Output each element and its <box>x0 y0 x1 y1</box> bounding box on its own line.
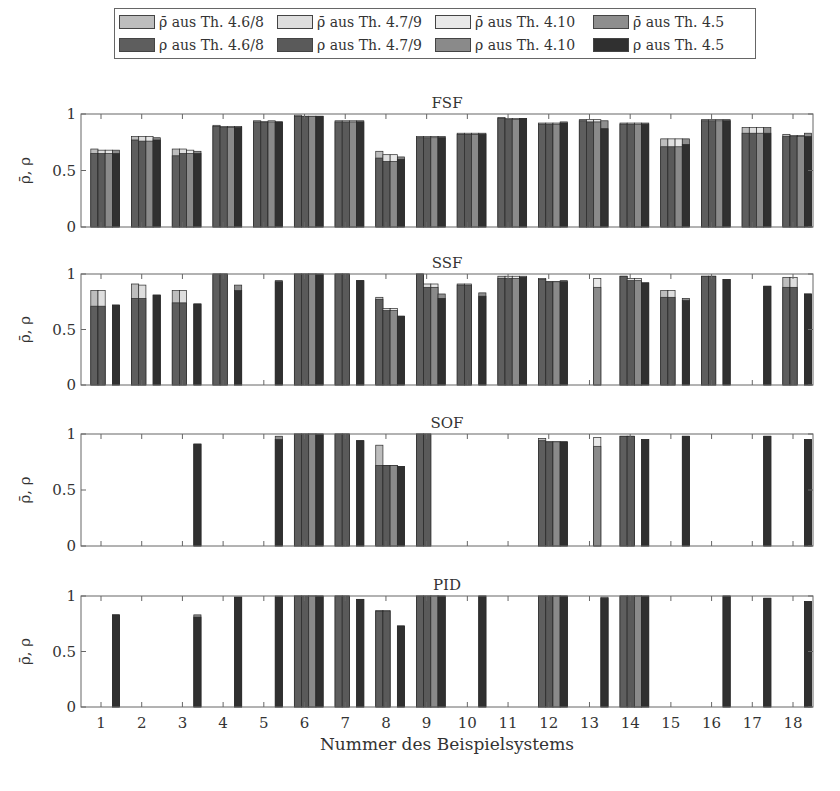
bar-rho <box>586 122 593 227</box>
y-axis-label: ρ̄, ρ <box>16 638 34 665</box>
bar-rho <box>438 138 445 227</box>
bar-rho <box>376 612 383 707</box>
bar-rho <box>682 301 689 385</box>
bar-rho <box>539 596 546 707</box>
bar-rho <box>172 156 179 227</box>
y-tick-label: 1 <box>66 105 76 123</box>
bar-rho <box>179 154 186 227</box>
bar-rho <box>579 121 586 227</box>
bar-rho <box>112 615 119 707</box>
bar-rho <box>479 596 486 707</box>
bar-rho <box>397 159 404 227</box>
bar-rho <box>275 122 282 227</box>
bar-rho <box>560 442 567 546</box>
bar-rho <box>416 274 423 385</box>
y-tick-label: 0 <box>66 376 76 394</box>
bar-rho <box>764 598 771 707</box>
bar-rho <box>416 434 423 546</box>
bar-rho <box>519 119 526 227</box>
bar-rho <box>302 116 309 227</box>
x-tick-label: 11 <box>499 714 518 732</box>
bar-rho <box>98 306 105 385</box>
bar-rho <box>620 276 627 385</box>
bar-rho <box>376 300 383 385</box>
x-tick-label: 5 <box>259 714 269 732</box>
subplot-fsf: FSF00.51ρ̄, ρ <box>16 94 813 236</box>
x-tick-label: 6 <box>300 714 310 732</box>
bar-rho <box>268 122 275 227</box>
bar-rho <box>294 116 301 227</box>
bar-rho <box>139 141 146 227</box>
bar-rho <box>675 147 682 227</box>
bar-rho <box>498 278 505 385</box>
bar-rho <box>701 121 708 227</box>
bar-rho <box>783 137 790 227</box>
y-tick-label: 0.5 <box>52 162 76 180</box>
bar-rho <box>764 286 771 385</box>
x-tick-label: 7 <box>340 714 350 732</box>
bar-rho <box>682 145 689 227</box>
bar-rho <box>764 436 771 546</box>
bar-rho <box>601 129 608 227</box>
bar-rho <box>98 154 105 227</box>
bar-rho <box>316 274 323 385</box>
bar-rho <box>194 617 201 707</box>
bar-rho <box>682 436 689 546</box>
bar-rho <box>642 283 649 385</box>
bar-rho <box>594 287 601 385</box>
bar-rho <box>342 122 349 227</box>
y-axis-label: ρ̄, ρ <box>16 157 34 184</box>
bar-rho <box>764 133 771 227</box>
bar-rho <box>627 436 634 546</box>
bar-rho <box>194 444 201 546</box>
bar-rho <box>553 282 560 385</box>
bar-rho <box>235 597 242 707</box>
bar-rho <box>594 122 601 227</box>
bar-rho <box>376 465 383 546</box>
bar-rho <box>383 311 390 385</box>
bar-rho <box>172 303 179 385</box>
bar-rho <box>342 274 349 385</box>
bar-rho <box>335 596 342 707</box>
bar-rho <box>620 436 627 546</box>
bar-rho <box>464 285 471 385</box>
bar-rho <box>261 122 268 227</box>
bar-rho <box>716 121 723 227</box>
x-tick-label: 14 <box>621 714 640 732</box>
bar-rho <box>153 295 160 385</box>
bar-rho <box>335 122 342 227</box>
bar-rho <box>634 281 641 385</box>
bar-rho <box>383 465 390 546</box>
y-tick-label: 0 <box>66 537 76 555</box>
bar-rho <box>464 134 471 227</box>
bar-rho <box>309 116 316 227</box>
bar-rho <box>560 123 567 227</box>
x-tick-label: 9 <box>422 714 432 732</box>
bar-rho <box>709 121 716 227</box>
bar-rho <box>723 280 730 385</box>
bar-rho <box>213 274 220 385</box>
bar-rho <box>316 434 323 546</box>
bar-rho <box>153 140 160 227</box>
bar-rho <box>634 596 641 707</box>
bar-rho <box>309 274 316 385</box>
bar-rho <box>335 274 342 385</box>
bar-rho <box>512 278 519 385</box>
bar-rho <box>397 466 404 546</box>
bar-rho <box>390 161 397 227</box>
axes-box <box>81 596 813 707</box>
bar-rho <box>357 281 364 385</box>
bar-rho <box>512 120 519 227</box>
bar-rho <box>275 282 282 385</box>
bar-rho <box>431 138 438 227</box>
bar-rho <box>553 442 560 546</box>
bar-rho <box>357 599 364 707</box>
bar-rho <box>220 274 227 385</box>
bar-rho <box>790 137 797 227</box>
bar-rho <box>294 596 301 707</box>
bar-rho <box>179 303 186 385</box>
bar-rho <box>254 122 261 227</box>
bar-rho <box>275 597 282 707</box>
bar-rho <box>91 306 98 385</box>
bar-rho <box>804 137 811 227</box>
